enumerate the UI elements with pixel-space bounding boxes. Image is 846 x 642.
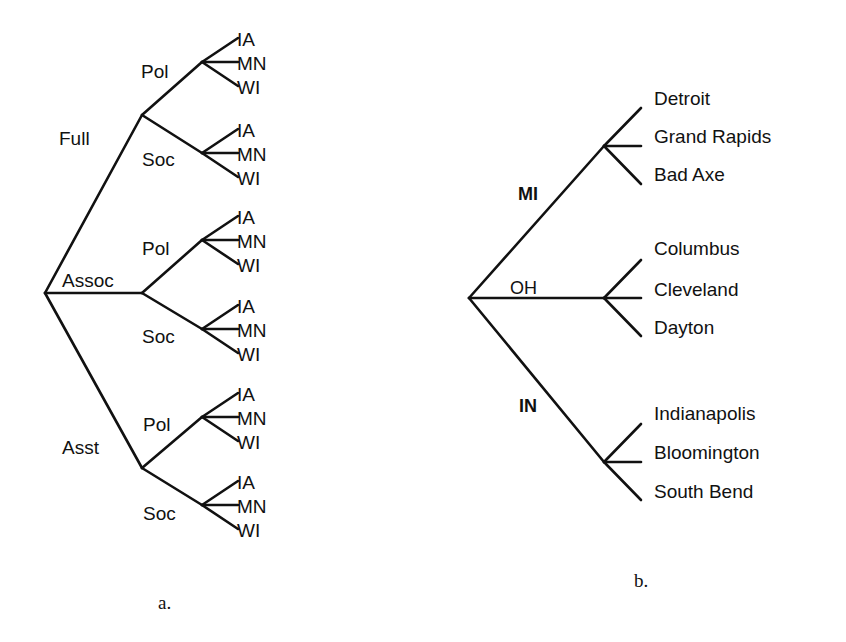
caption-b: b. (634, 570, 648, 591)
edge-assoc-soc (142, 293, 202, 329)
state-label-oh: OH (510, 278, 537, 298)
edge-leaf-wi (202, 153, 238, 177)
edge-asst-soc (142, 468, 202, 505)
state-leaf-mn: MN (237, 53, 267, 74)
edge-city (604, 260, 641, 298)
field-label-pol: Pol (141, 61, 168, 82)
state-leaf-ia: IA (237, 207, 255, 228)
tree-diagram-b: MIOHINDetroitGrand RapidsBad AxeColumbus… (469, 88, 771, 502)
rank-label-asst: Asst (62, 437, 100, 458)
edge-leaf-ia (202, 38, 238, 62)
rank-label-full: Full (59, 128, 90, 149)
city-label: Bloomington (654, 442, 760, 463)
state-leaf-mn: MN (237, 320, 267, 341)
state-leaf-ia: IA (237, 29, 255, 50)
edge-leaf-ia (202, 481, 238, 505)
state-leaf-wi: WI (237, 168, 260, 189)
state-leaf-ia: IA (237, 472, 255, 493)
city-label: Dayton (654, 317, 714, 338)
edge-leaf-wi (202, 417, 238, 441)
state-leaf-wi: WI (237, 344, 260, 365)
city-label: Detroit (654, 88, 711, 109)
state-leaf-wi: WI (237, 520, 260, 541)
field-label-soc: Soc (143, 503, 176, 524)
edge-city (604, 424, 641, 462)
rank-label-assoc: Assoc (62, 270, 114, 291)
edge-leaf-wi (202, 240, 238, 264)
field-label-soc: Soc (142, 326, 175, 347)
state-leaf-wi: WI (237, 432, 260, 453)
edge-city (604, 298, 641, 336)
state-leaf-ia: IA (237, 384, 255, 405)
city-label: Cleveland (654, 279, 739, 300)
state-leaf-wi: WI (237, 77, 260, 98)
city-label: Bad Axe (654, 164, 725, 185)
city-label: Grand Rapids (654, 126, 771, 147)
state-leaf-mn: MN (237, 144, 267, 165)
tree-diagram-a: FullPolIAMNWISocIAMNWIAssocPolIAMNWISocI… (45, 29, 267, 541)
state-leaf-wi: WI (237, 255, 260, 276)
edge-root-mi (469, 146, 604, 298)
edge-leaf-wi (202, 329, 238, 353)
tree-diagrams: FullPolIAMNWISocIAMNWIAssocPolIAMNWISocI… (0, 0, 846, 642)
edge-leaf-wi (202, 62, 238, 86)
edge-root-in (469, 298, 604, 462)
edge-leaf-ia (202, 305, 238, 329)
field-label-pol: Pol (143, 414, 170, 435)
edge-city (604, 462, 641, 500)
edge-city (604, 146, 641, 184)
edge-leaf-ia (202, 216, 238, 240)
city-label: South Bend (654, 481, 753, 502)
city-label: Indianapolis (654, 403, 755, 424)
field-label-pol: Pol (142, 238, 169, 259)
state-leaf-mn: MN (237, 231, 267, 252)
state-label-in: IN (519, 396, 537, 416)
field-label-soc: Soc (142, 149, 175, 170)
caption-a: a. (158, 592, 171, 613)
edge-leaf-wi (202, 505, 238, 529)
state-leaf-mn: MN (237, 496, 267, 517)
state-leaf-mn: MN (237, 408, 267, 429)
edge-city (604, 108, 641, 146)
state-leaf-ia: IA (237, 296, 255, 317)
state-label-mi: MI (518, 184, 538, 204)
edge-leaf-ia (202, 129, 238, 153)
edge-leaf-ia (202, 393, 238, 417)
edge-full-soc (142, 115, 202, 153)
state-leaf-ia: IA (237, 120, 255, 141)
city-label: Columbus (654, 238, 740, 259)
